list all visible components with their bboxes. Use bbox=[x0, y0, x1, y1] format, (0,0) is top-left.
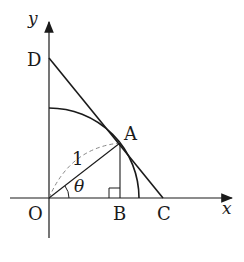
angle-arc bbox=[65, 186, 69, 198]
radius-label: 1 bbox=[72, 148, 83, 169]
geometry-diagram: y x D A O B C 1 θ bbox=[0, 0, 244, 262]
point-label-d: D bbox=[27, 49, 41, 70]
angle-label: θ bbox=[74, 176, 84, 196]
y-axis-label: y bbox=[27, 8, 38, 28]
right-angle-marker bbox=[109, 188, 120, 198]
point-label-o: O bbox=[28, 203, 43, 224]
point-label-b: B bbox=[113, 203, 126, 224]
x-axis-label: x bbox=[222, 198, 232, 218]
point-label-c: C bbox=[157, 203, 171, 224]
point-label-a: A bbox=[123, 123, 138, 144]
tangent-line-dc bbox=[49, 58, 163, 198]
